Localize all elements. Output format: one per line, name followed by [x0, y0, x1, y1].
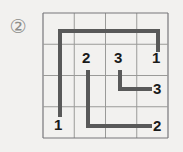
endpoint-label-1-bottom-left: 1	[54, 117, 62, 132]
puzzle-path-3	[120, 70, 152, 89]
puzzle-container: ② 112233	[0, 0, 183, 152]
endpoint-label-2-bottom-right: 2	[153, 118, 161, 133]
endpoint-label-3-top: 3	[114, 50, 122, 65]
circled-number-icon: ②	[9, 17, 26, 36]
endpoint-label-1-top-right: 1	[152, 50, 160, 65]
endpoint-label-2-top: 2	[82, 50, 90, 65]
problem-number-badge: ②	[6, 14, 30, 38]
endpoint-label-3-right: 3	[153, 81, 161, 96]
